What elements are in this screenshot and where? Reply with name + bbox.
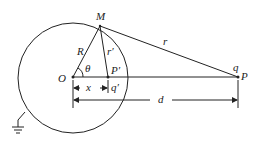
point-P — [237, 76, 240, 79]
label-r: r — [163, 35, 168, 47]
label-M: M — [95, 10, 106, 22]
label-q: q — [233, 61, 239, 73]
label-theta: θ — [85, 62, 91, 74]
point-O — [72, 76, 75, 79]
label-O: O — [58, 72, 66, 84]
theta-arc — [78, 68, 83, 77]
label-d: d — [158, 93, 164, 105]
point-P-prime — [107, 76, 110, 79]
label-R: R — [76, 45, 84, 57]
label-P-prime: P′ — [110, 64, 121, 76]
ground-icon — [12, 112, 25, 133]
label-q-prime: q′ — [111, 81, 120, 93]
label-x: x — [85, 81, 91, 93]
label-P: P — [240, 70, 248, 82]
image-charge-diagram: M R r′ r θ O P′ q P x q′ d — [0, 0, 256, 146]
label-r-prime: r′ — [107, 45, 114, 57]
point-M — [99, 25, 101, 27]
